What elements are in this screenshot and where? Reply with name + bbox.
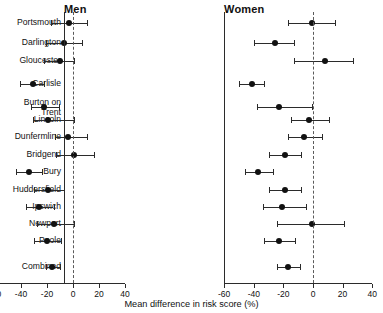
x-axis-tick-label: 0	[61, 289, 85, 299]
x-axis-tick-label: -60	[212, 289, 236, 299]
confidence-interval-cap	[294, 40, 295, 46]
x-axis-line	[0, 283, 125, 284]
confidence-interval-cap	[306, 204, 307, 210]
confidence-interval-cap	[239, 81, 240, 87]
confidence-interval-cap	[94, 152, 95, 158]
confidence-interval-cap	[329, 117, 330, 123]
x-axis-tick	[372, 284, 373, 288]
point-estimate-marker	[255, 169, 261, 175]
x-axis-tick	[283, 284, 284, 288]
point-estimate-marker	[322, 58, 328, 64]
confidence-interval-cap	[245, 169, 246, 175]
confidence-interval-cap	[87, 134, 88, 140]
panel-title-men: Men	[64, 3, 87, 15]
confidence-interval-cap	[277, 264, 278, 270]
confidence-interval-cap	[277, 221, 278, 227]
x-axis-tick	[73, 284, 74, 288]
confidence-interval-line	[55, 137, 88, 138]
panel-title-women: Women	[224, 3, 265, 15]
x-axis-tick-label: -60	[0, 289, 7, 299]
confidence-interval-cap	[254, 40, 255, 46]
confidence-interval-cap	[294, 58, 295, 64]
x-axis-tick-label: -40	[9, 289, 33, 299]
confidence-interval-line	[257, 107, 312, 108]
confidence-interval-cap	[322, 134, 323, 140]
confidence-interval-cap	[264, 238, 265, 244]
point-estimate-marker	[66, 20, 72, 26]
confidence-interval-cap	[273, 169, 274, 175]
point-estimate-marker	[249, 81, 255, 87]
confidence-interval-cap	[26, 204, 27, 210]
confidence-interval-cap	[82, 40, 83, 46]
confidence-interval-cap	[33, 117, 34, 123]
confidence-interval-cap	[31, 104, 32, 110]
confidence-interval-cap	[300, 264, 301, 270]
confidence-interval-cap	[56, 152, 57, 158]
confidence-interval-cap	[288, 20, 289, 26]
point-estimate-marker	[65, 134, 71, 140]
confidence-interval-cap	[295, 238, 296, 244]
confidence-interval-cap	[74, 221, 75, 227]
confidence-interval-cap	[34, 187, 35, 193]
x-axis-tick-label: 20	[331, 289, 355, 299]
confidence-interval-line	[33, 120, 75, 121]
y-axis-line	[224, 12, 225, 283]
row-label: Bury	[43, 167, 61, 177]
point-estimate-marker	[279, 204, 285, 210]
confidence-interval-cap	[301, 187, 302, 193]
point-estimate-marker	[30, 81, 36, 87]
confidence-interval-cap	[335, 20, 336, 26]
point-estimate-marker	[276, 238, 282, 244]
x-axis-line	[224, 283, 372, 284]
x-axis-tick-label: 0	[301, 289, 325, 299]
point-estimate-marker	[306, 117, 312, 123]
x-axis-tick	[99, 284, 100, 288]
confidence-interval-cap	[55, 134, 56, 140]
x-axis-tick	[47, 284, 48, 288]
confidence-interval-cap	[44, 81, 45, 87]
zero-reference-line	[313, 12, 314, 283]
point-estimate-marker	[26, 169, 32, 175]
confidence-interval-cap	[344, 221, 345, 227]
x-axis-tick	[313, 284, 314, 288]
x-axis-tick	[224, 284, 225, 288]
confidence-interval-cap	[16, 169, 17, 175]
point-estimate-marker	[282, 187, 288, 193]
point-estimate-marker	[282, 152, 288, 158]
confidence-interval-cap	[288, 134, 289, 140]
confidence-interval-cap	[269, 187, 270, 193]
point-estimate-marker	[57, 58, 63, 64]
confidence-interval-cap	[44, 58, 45, 64]
confidence-interval-cap	[60, 264, 61, 270]
zero-reference-line	[73, 12, 74, 283]
x-axis-tick-label: -20	[35, 289, 59, 299]
confidence-interval-cap	[51, 20, 52, 26]
x-axis-label: Mean difference in risk score (%)	[0, 299, 383, 309]
confidence-interval-cap	[20, 81, 21, 87]
x-axis-tick	[254, 284, 255, 288]
point-estimate-marker	[44, 238, 50, 244]
x-axis-tick-label: -40	[242, 289, 266, 299]
confidence-interval-cap	[264, 81, 265, 87]
confidence-interval-cap	[353, 58, 354, 64]
point-estimate-marker	[276, 104, 282, 110]
point-estimate-marker	[51, 221, 57, 227]
confidence-interval-cap	[46, 264, 47, 270]
confidence-interval-cap	[87, 20, 88, 26]
confidence-interval-cap	[54, 204, 55, 210]
y-axis-line	[64, 12, 65, 283]
forest-plot: Men Women PortsmouthDarlingtonGloucester…	[0, 0, 383, 313]
x-axis-tick-label: 40	[360, 289, 383, 299]
x-axis-tick-label: 40	[113, 289, 137, 299]
x-axis-tick-label: 20	[87, 289, 111, 299]
x-axis-tick	[343, 284, 344, 288]
confidence-interval-cap	[257, 104, 258, 110]
confidence-interval-cap	[61, 238, 62, 244]
confidence-interval-cap	[46, 40, 47, 46]
confidence-interval-cap	[34, 238, 35, 244]
point-estimate-marker	[285, 264, 291, 270]
x-axis-tick	[21, 284, 22, 288]
confidence-interval-cap	[263, 204, 264, 210]
confidence-interval-cap	[59, 104, 60, 110]
point-estimate-marker	[301, 134, 307, 140]
